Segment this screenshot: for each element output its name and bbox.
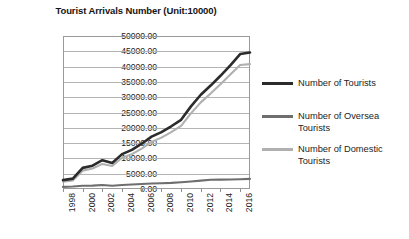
x-axis-tick-label: 2010 [185,193,195,212]
tourist-arrivals-chart: Tourist Arrivals Number (Unit:10000) 500… [0,0,409,239]
legend-label: Number of Oversea Tourists [298,111,379,134]
x-axis-tick-mark [240,189,241,192]
series-lines [63,36,250,189]
legend-color-swatch [262,82,293,85]
x-axis-tick-mark [181,189,182,192]
legend-label: Number of Domestic Tourists [298,144,383,167]
x-axis-tick-mark [102,189,103,192]
legend-entry[interactable]: Number of Tourists [262,78,376,90]
x-axis-tick-mark [83,189,84,192]
x-axis-tick-mark [220,189,221,192]
x-axis-tick-label: 2002 [106,193,116,212]
series-line [63,53,250,181]
x-axis-tick-label: 2000 [87,193,97,212]
x-axis-tick-mark [201,189,202,192]
legend-color-swatch [262,115,293,118]
series-line [63,64,250,182]
legend-entry[interactable]: Number of Domestic Tourists [262,144,383,167]
chart-title: Tourist Arrivals Number (Unit:10000) [0,5,272,16]
x-axis-tick-label: 2006 [146,193,156,212]
x-axis-tick-label: 2004 [126,193,136,212]
legend-color-swatch [262,148,293,151]
x-axis-tick-label: 2012 [205,193,215,212]
x-axis-tick-label: 2014 [224,193,234,212]
legend-entry[interactable]: Number of Oversea Tourists [262,111,379,134]
legend-label: Number of Tourists [298,78,376,90]
plot-area [63,36,250,189]
x-axis-tick-label: 1998 [67,193,77,212]
series-line [63,179,250,187]
x-axis-tick-label: 2016 [244,193,254,212]
x-axis-tick-mark [122,189,123,192]
x-axis-tick-label: 2008 [165,193,175,212]
x-axis-tick-mark [63,189,64,192]
x-axis-tick-mark [161,189,162,192]
x-axis-tick-mark [142,189,143,192]
